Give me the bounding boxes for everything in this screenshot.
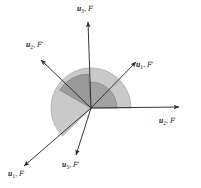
axis-label-u2-Fp: u2, F' — [26, 41, 43, 50]
axis-label-u2-F: u2, F — [159, 117, 175, 126]
frame-prime-u2-Fp: ' — [42, 40, 43, 47]
axis-label-u3-F: u3, F — [77, 5, 93, 14]
frame-prime-u1-Fp: ' — [152, 60, 153, 67]
frame-symbol-u1-F: F — [19, 169, 24, 178]
frame-symbol-u3-F: F — [88, 4, 93, 13]
frame-prime-u3-Fp: ' — [78, 160, 79, 167]
diagram-canvas — [0, 0, 201, 188]
frame-symbol-u2-F: F — [170, 116, 175, 125]
frame-rotation-figure: u3, F u2, F' u1, F' u2, F u1, F u3, F' — [0, 0, 201, 188]
axis-label-u1-F: u1, F — [8, 170, 24, 179]
axis-label-u3-Fp: u3, F' — [62, 161, 79, 170]
axis-label-u1-Fp: u1, F' — [136, 61, 153, 70]
